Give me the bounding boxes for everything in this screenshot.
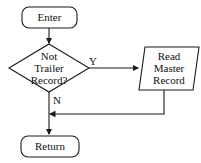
decision-line-2: Trailer: [19, 62, 79, 74]
no-label: N: [52, 94, 62, 106]
decision-line-3: Record?: [19, 74, 79, 86]
decision-label: Not Trailer Record?: [19, 50, 79, 86]
enter-label: Enter: [22, 11, 77, 23]
return-label: Return: [21, 140, 79, 152]
read-line-3: Record: [141, 74, 197, 86]
read-label: Read Master Record: [141, 50, 197, 86]
decision-line-1: Not: [19, 50, 79, 62]
read-line-2: Master: [141, 62, 197, 74]
yes-label: Y: [87, 55, 99, 67]
edge-read-merge: [50, 90, 164, 114]
read-line-1: Read: [141, 50, 197, 62]
